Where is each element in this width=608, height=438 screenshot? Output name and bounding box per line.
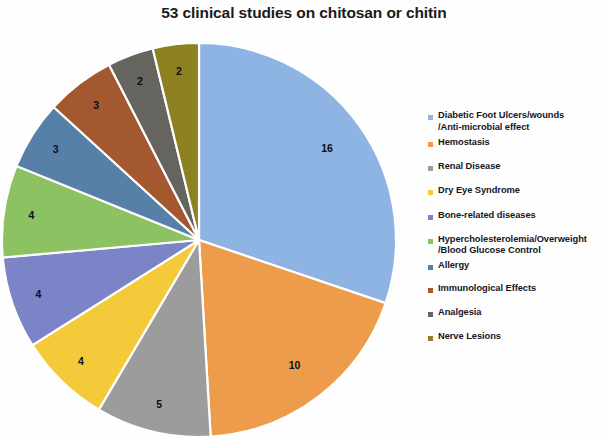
pie-chart-figure: 53 clinical studies on chitosan or chiti…: [0, 0, 608, 438]
pie-slice-value-label: 10: [289, 359, 301, 371]
legend-item[interactable]: Allergy: [428, 260, 608, 272]
legend-item-label: Dry Eye Syndrome: [438, 185, 520, 197]
pie-slice-value-label: 2: [137, 75, 143, 87]
pie-slice-value-label: 5: [156, 398, 162, 410]
legend-item-label: Allergy: [438, 260, 469, 272]
legend-item-label: Bone-related diseases: [438, 210, 536, 222]
legend-item[interactable]: Diabetic Foot Ulcers/wounds /Anti-microb…: [428, 110, 608, 133]
legend-item[interactable]: Bone-related diseases: [428, 210, 608, 222]
legend-item-label: Hypercholesterolemia/Overweight /Blood G…: [438, 234, 587, 257]
pie-slice-value-label: 4: [36, 288, 42, 300]
pie-slice-value-label: 4: [78, 355, 84, 367]
legend-item-label: Diabetic Foot Ulcers/wounds /Anti-microb…: [438, 110, 564, 133]
legend-item-label: Nerve Lesions: [438, 331, 501, 343]
legend-color-swatch-icon: [428, 115, 433, 120]
legend-item-label: Hemostasis: [438, 137, 490, 149]
chart-title: 53 clinical studies on chitosan or chiti…: [0, 4, 608, 22]
legend-item-label: Renal Disease: [438, 161, 500, 173]
pie-slice-value-label: 3: [53, 143, 59, 155]
pie-svg: 161054443322: [0, 22, 400, 438]
legend-item[interactable]: Analgesia: [428, 307, 608, 319]
legend-item-label: Analgesia: [438, 307, 481, 319]
pie-slice-value-label: 4: [28, 209, 34, 221]
pie-chart-area: 161054443322: [0, 22, 400, 438]
pie-slice-value-label: 2: [176, 65, 182, 77]
pie-slice-value-label: 3: [93, 99, 99, 111]
legend-item-label: Immunological Effects: [438, 283, 536, 295]
pie-slices-group: [2, 43, 396, 437]
legend-color-swatch-icon: [428, 142, 433, 147]
legend-color-swatch-icon: [428, 336, 433, 341]
legend-item[interactable]: Hemostasis: [428, 137, 608, 149]
legend-color-swatch-icon: [428, 239, 433, 244]
pie-slice-value-label: 16: [321, 142, 333, 154]
legend-color-swatch-icon: [428, 312, 433, 317]
legend-item[interactable]: Hypercholesterolemia/Overweight /Blood G…: [428, 234, 608, 257]
legend-color-swatch-icon: [428, 166, 433, 171]
legend: Diabetic Foot Ulcers/wounds /Anti-microb…: [428, 110, 608, 342]
legend-item[interactable]: Dry Eye Syndrome: [428, 185, 608, 197]
legend-color-swatch-icon: [428, 190, 433, 195]
legend-item[interactable]: Nerve Lesions: [428, 331, 608, 343]
legend-color-swatch-icon: [428, 265, 433, 270]
legend-item[interactable]: Renal Disease: [428, 161, 608, 173]
legend-item[interactable]: Immunological Effects: [428, 283, 608, 295]
legend-color-swatch-icon: [428, 215, 433, 220]
legend-color-swatch-icon: [428, 288, 433, 293]
